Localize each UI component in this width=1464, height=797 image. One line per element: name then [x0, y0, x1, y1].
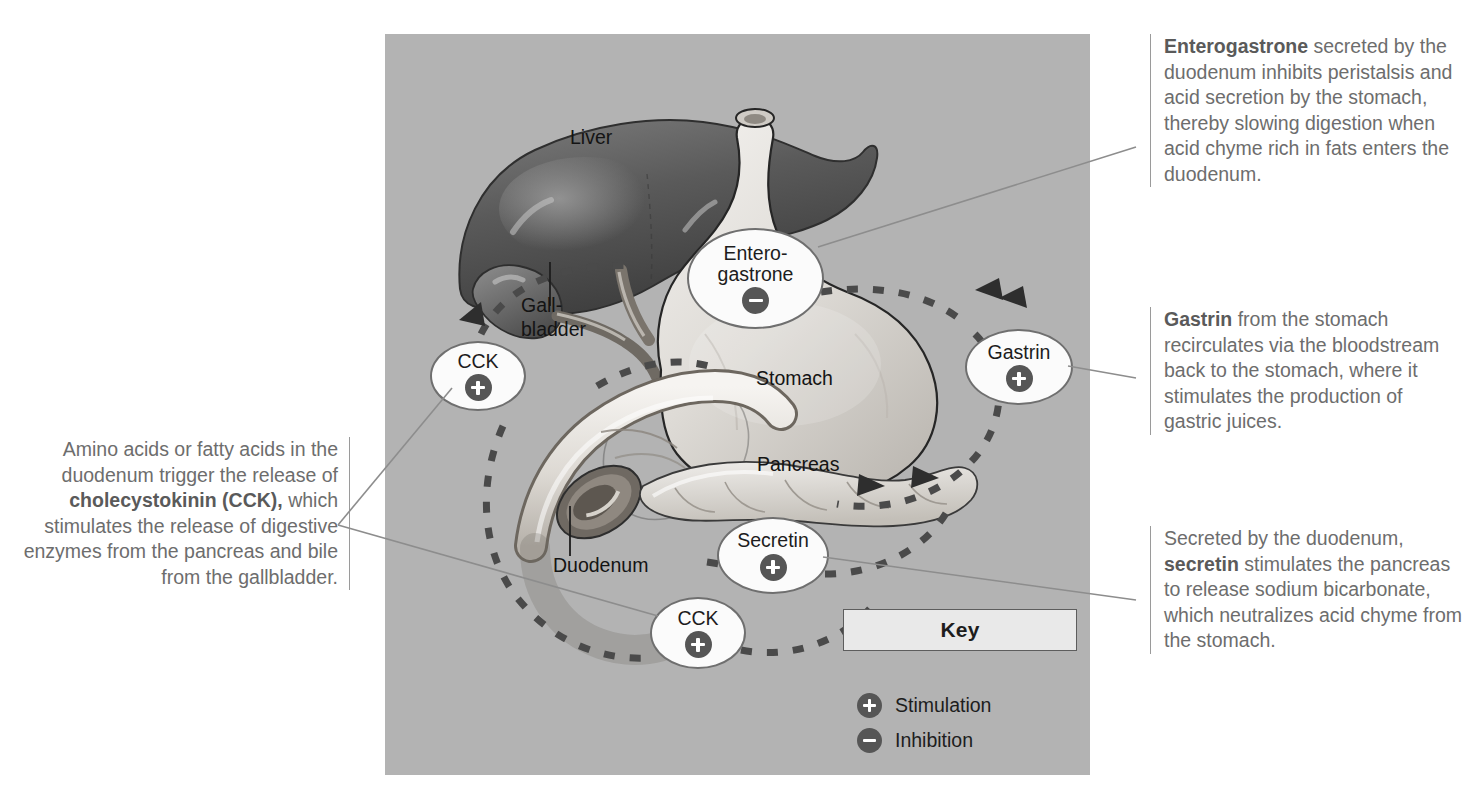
key-title: Key — [940, 618, 979, 642]
stimulation-icon — [857, 693, 882, 718]
key-label-stimulation: Stimulation — [895, 694, 991, 717]
organ-label-duodenum: Duodenum — [553, 553, 648, 577]
key-label-inhibition: Inhibition — [895, 729, 973, 752]
hormone-label-enterogastrone: Entero- gastrone — [718, 243, 794, 284]
organ-label-stomach: Stomach — [756, 366, 833, 390]
annotation-gastrin: Gastrin from the stomach recirculates vi… — [1150, 307, 1464, 435]
organ-label-gallbladder: Gall- bladder — [521, 293, 586, 341]
annotation-enterogastrone-body: secreted by the duodenum inhibits perist… — [1164, 35, 1452, 185]
stimulation-icon — [465, 374, 492, 401]
hormone-bubble-enterogastrone[interactable]: Entero- gastrone — [687, 228, 824, 329]
stimulation-icon — [685, 631, 712, 658]
hormone-label-cck-upper: CCK — [457, 351, 498, 372]
annotation-cck: Amino acids or fatty acids in the duoden… — [18, 437, 350, 590]
organ-label-liver: Liver — [570, 125, 612, 149]
stimulation-icon — [760, 554, 787, 581]
key-row-stimulation: Stimulation — [857, 693, 991, 718]
inhibition-icon — [857, 728, 882, 753]
annotation-enterogastrone-term: Enterogastrone — [1164, 35, 1308, 57]
hormone-bubble-secretin[interactable]: Secretin — [717, 517, 829, 594]
hormone-bubble-cck-lower[interactable]: CCK — [650, 597, 746, 669]
stimulation-icon — [1006, 365, 1033, 392]
annotation-enterogastrone: Enterogastrone secreted by the duodenum … — [1150, 34, 1464, 187]
annotation-secretin-term: secretin — [1164, 553, 1239, 575]
annotation-cck-body-1: Amino acids or fatty acids in the duoden… — [62, 438, 338, 486]
annotation-secretin: Secreted by the duodenum, secretin stimu… — [1150, 526, 1464, 654]
inhibition-icon — [742, 287, 769, 314]
hormone-bubble-gastrin[interactable]: Gastrin — [965, 329, 1073, 405]
hormone-label-gastrin: Gastrin — [988, 342, 1051, 363]
key-row-inhibition: Inhibition — [857, 728, 973, 753]
key-box: Key — [843, 609, 1077, 651]
organ-label-pancreas: Pancreas — [757, 452, 839, 476]
hormone-bubble-cck-upper[interactable]: CCK — [430, 341, 526, 411]
annotation-secretin-body-1: Secreted by the duodenum, — [1164, 527, 1404, 549]
annotation-cck-term: cholecystokinin (CCK), — [69, 489, 282, 511]
annotation-gastrin-term: Gastrin — [1164, 308, 1232, 330]
hormone-label-secretin: Secretin — [737, 530, 809, 551]
hormone-label-cck-lower: CCK — [677, 608, 718, 629]
